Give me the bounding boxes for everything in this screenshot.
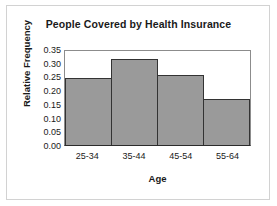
bar <box>203 99 250 145</box>
chart-title: People Covered by Health Insurance <box>0 18 277 30</box>
bar-series <box>65 51 250 145</box>
y-axis-label: Relative Frequency <box>21 18 32 110</box>
y-tick-label: 0.25 <box>43 73 61 82</box>
chart-figure: People Covered by Health Insurance Relat… <box>0 0 277 206</box>
y-tick-label: 0.30 <box>43 59 61 68</box>
y-tick-label: 0.35 <box>43 46 61 55</box>
y-tick-label: 0.00 <box>43 142 61 151</box>
y-axis-tick-labels: 0.000.050.100.150.200.250.300.35 <box>34 50 61 146</box>
x-tick-label: 45-54 <box>158 151 205 161</box>
bar <box>65 78 112 145</box>
x-tick-label: 55-64 <box>204 151 251 161</box>
x-axis-tick-labels: 25-3435-4445-5455-64 <box>64 151 251 161</box>
y-tick-label: 0.10 <box>43 114 61 123</box>
x-axis-label: Age <box>64 173 251 184</box>
y-tick-label: 0.20 <box>43 87 61 96</box>
bar <box>111 59 158 145</box>
x-tick-label: 35-44 <box>111 151 158 161</box>
y-tick-label: 0.05 <box>43 128 61 137</box>
plot-area <box>64 50 251 146</box>
bar <box>157 75 204 145</box>
x-tick-label: 25-34 <box>64 151 111 161</box>
y-tick-label: 0.15 <box>43 100 61 109</box>
